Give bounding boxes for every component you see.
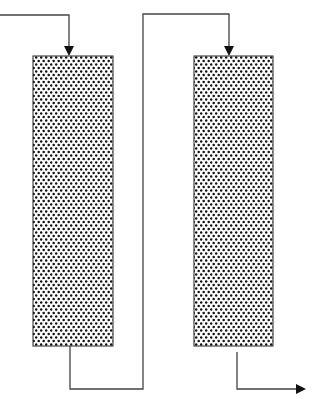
product-outlet-stream: [237, 352, 306, 394]
product-outlet-line: [237, 352, 298, 389]
column-1: [33, 56, 113, 346]
arrow-down-icon: [224, 46, 234, 56]
feed-inlet-line: [0, 15, 69, 48]
column-2: [194, 56, 273, 346]
packed-bed-2: [194, 56, 273, 346]
feed-inlet-stream: [0, 15, 74, 56]
packed-column-diagram: [0, 0, 319, 407]
arrow-down-icon: [64, 46, 74, 56]
arrow-right-icon: [296, 384, 306, 394]
packed-bed-1: [33, 56, 113, 346]
